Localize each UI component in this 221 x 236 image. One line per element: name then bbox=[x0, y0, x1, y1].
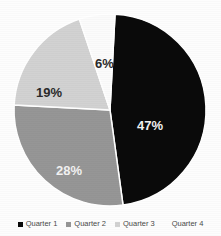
slice-label-quarter-2: 28% bbox=[56, 164, 82, 177]
chart-plot-area: 47% 28% 19% 6% bbox=[0, 0, 221, 212]
legend-item-quarter-3[interactable]: Quarter 3 bbox=[115, 220, 155, 228]
legend-label-quarter-3: Quarter 3 bbox=[123, 220, 155, 228]
pie-slice-group bbox=[14, 14, 206, 206]
legend-item-quarter-4[interactable]: Quarter 4 bbox=[164, 220, 204, 228]
pie-slice-quarter-1[interactable] bbox=[110, 14, 206, 205]
legend-swatch-icon-quarter-3 bbox=[115, 222, 120, 227]
legend-label-quarter-1: Quarter 1 bbox=[26, 220, 58, 228]
legend-item-quarter-1[interactable]: Quarter 1 bbox=[18, 220, 58, 228]
legend-swatch-icon-quarter-2 bbox=[66, 222, 71, 227]
legend-label-quarter-4: Quarter 4 bbox=[172, 220, 204, 228]
slice-label-quarter-4: 6% bbox=[95, 57, 114, 70]
pie-svg bbox=[0, 0, 221, 212]
legend-swatch-icon-quarter-1 bbox=[18, 222, 23, 227]
pie-slice-quarter-2[interactable] bbox=[14, 105, 123, 206]
legend-swatch-icon-quarter-4 bbox=[164, 222, 169, 227]
slice-label-quarter-3: 19% bbox=[36, 86, 62, 99]
chart-legend: Quarter 1 Quarter 2 Quarter 3 Quarter 4 bbox=[0, 215, 221, 233]
legend-item-quarter-2[interactable]: Quarter 2 bbox=[66, 220, 106, 228]
pie-chart: 47% 28% 19% 6% Quarter 1 Quarter 2 Quart… bbox=[0, 0, 221, 236]
legend-label-quarter-2: Quarter 2 bbox=[74, 220, 106, 228]
slice-label-quarter-1: 47% bbox=[137, 119, 163, 132]
